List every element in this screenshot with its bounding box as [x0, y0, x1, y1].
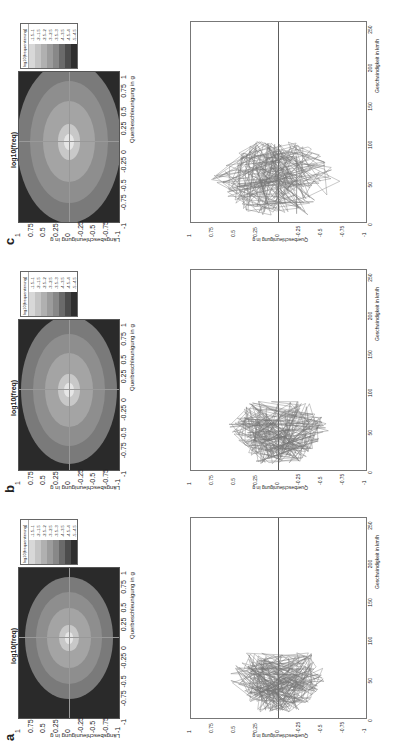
- heatmap-ytick: 1: [14, 481, 21, 485]
- heatmap-xtick: -0.75: [120, 690, 127, 706]
- legend-label: -1.5--1: [30, 525, 35, 540]
- heatmap-xtick: -0.75: [120, 194, 127, 210]
- heatmap-ytick: 1: [14, 233, 21, 237]
- heatmap-xtick: -0.5: [120, 427, 127, 439]
- heatmap-ylabel-b: Längsbeschleunigung in g: [50, 485, 120, 491]
- line-plot-b: [190, 269, 367, 471]
- heatmap-xtick: 0: [120, 646, 127, 650]
- line-xlabel-c: Geschwindigkeit in km/h: [374, 39, 380, 93]
- legend-swatch: [71, 292, 77, 316]
- legend-label: -3--2.5: [48, 525, 53, 540]
- line-xlabel-a: Geschwindigkeit in km/h: [374, 535, 380, 589]
- legend-swatch: [71, 540, 77, 564]
- heatmap-a: [18, 567, 120, 719]
- legend-title: log10(frequentierung): [21, 24, 29, 68]
- legend-label: -4--3.5: [60, 29, 65, 44]
- line-xtick: 0: [367, 471, 373, 474]
- legend-title: log10(frequentierung): [21, 272, 29, 316]
- line-ytick: 1: [186, 730, 192, 733]
- line-xtick: 200: [367, 312, 373, 320]
- line-ylabel-c: Querbeschleunigung in g: [252, 237, 308, 243]
- line-ytick: -0.75: [339, 474, 345, 485]
- heatmap-xtick: -0.5: [120, 675, 127, 687]
- heatmap-xlabel-a: Querbeschleunigung in g: [129, 572, 135, 639]
- legend-label: -4.5--4: [66, 525, 71, 540]
- heatmap-xtick: -0.25: [120, 653, 127, 669]
- line-ytick: 0.25: [252, 475, 258, 485]
- line-ytick: -0.25: [295, 474, 301, 485]
- line-ytick: 0.75: [208, 475, 214, 485]
- heatmap-legend-a: log10(frequentierung)-1.5--1-2--1.5-2.5-…: [20, 519, 78, 565]
- figure-rotated-canvas: alog10(freq)10.750.50.250-0.25-0.5-0.75-…: [0, 0, 411, 751]
- line-ytick: 0.75: [208, 723, 214, 733]
- line-ytick: 0.25: [252, 227, 258, 237]
- heatmap-ytick: 1: [14, 729, 21, 733]
- heatmap-ytick: -0.75: [102, 717, 109, 733]
- line-ytick: -0.5: [317, 228, 323, 237]
- heatmap-xtick: 0.75: [120, 580, 127, 594]
- line-ytick: -0.25: [295, 722, 301, 733]
- legend-label: -3.5--3: [54, 29, 59, 44]
- heatmap-xtick: 1: [120, 75, 127, 79]
- heatmap-ylabel-a: Längsbeschleunigung in g: [50, 733, 120, 739]
- line-ytick: -1: [361, 233, 367, 237]
- line-ytick: 1: [186, 482, 192, 485]
- legend-label: -4--3.5: [60, 277, 65, 292]
- zero-line-y: [69, 72, 70, 222]
- heatmap-xtick: -0.5: [120, 179, 127, 191]
- heatmap-ytick: 0.25: [52, 223, 59, 237]
- legend-row: -5--4.5: [71, 24, 77, 68]
- line-ytick: -0.5: [317, 724, 323, 733]
- line-ytick: -0.5: [317, 476, 323, 485]
- heatmap-c: [18, 71, 120, 223]
- heatmap-xtick: -1: [120, 471, 127, 477]
- heatmap-title-a: log10(freq): [10, 628, 17, 664]
- panel-letter-b: b: [2, 485, 17, 493]
- line-xlabel-b: Geschwindigkeit in km/h: [374, 287, 380, 341]
- legend-label: -5--4.5: [72, 277, 77, 292]
- heatmap-ytick: 0.75: [27, 719, 34, 733]
- heatmap-xtick: 0: [120, 150, 127, 154]
- heatmap-ytick: 0.5: [39, 475, 46, 485]
- legend-label: -2.5--2: [42, 29, 47, 44]
- heatmap-xtick: -1: [120, 223, 127, 229]
- heatmap-ytick: -0.5: [89, 473, 96, 485]
- heatmap-ytick: 0.75: [27, 471, 34, 485]
- zero-line-y: [69, 320, 70, 470]
- heatmap-xlabel-c: Querbeschleunigung in g: [129, 76, 135, 143]
- heatmap-ytick: -0.5: [89, 721, 96, 733]
- heatmap-ytick: 0.5: [39, 723, 46, 733]
- line-ytick: -0.75: [339, 226, 345, 237]
- line-xtick: 0: [367, 719, 373, 722]
- line-xtick: 250: [367, 25, 373, 33]
- heatmap-legend-b: log10(frequentierung)-1.5--1-2--1.5-2.5-…: [20, 271, 78, 317]
- legend-label: -2--1.5: [36, 29, 41, 44]
- line-ytick: 1: [186, 234, 192, 237]
- heatmap-ytick: -0.25: [77, 221, 84, 237]
- legend-label: -5--4.5: [72, 525, 77, 540]
- line-xtick: 250: [367, 273, 373, 281]
- legend-label: -3--2.5: [48, 277, 53, 292]
- legend-label: -2--1.5: [36, 277, 41, 292]
- line-ytick: -0.75: [339, 722, 345, 733]
- heatmap-title-c: log10(freq): [10, 132, 17, 168]
- heatmap-ytick: -0.5: [89, 225, 96, 237]
- heatmap-xtick: 0.25: [120, 122, 127, 136]
- heatmap-ytick: -0.25: [77, 469, 84, 485]
- line-xtick: 100: [367, 389, 373, 397]
- legend-label: -2.5--2: [42, 525, 47, 540]
- heatmap-title-b: log10(freq): [10, 380, 17, 416]
- line-plot-c: [190, 21, 367, 223]
- line-ytick: -1: [361, 729, 367, 733]
- legend-label: -3.5--3: [54, 525, 59, 540]
- heatmap-legend-c: log10(frequentierung)-1.5--1-2--1.5-2.5-…: [20, 23, 78, 69]
- heatmap-b: [18, 319, 120, 471]
- heatmap-ytick: 0.25: [52, 471, 59, 485]
- legend-title: log10(frequentierung): [21, 520, 29, 564]
- legend-row: -5--4.5: [71, 272, 77, 316]
- line-ytick: 0.5: [230, 230, 236, 237]
- legend-label: -1.5--1: [30, 277, 35, 292]
- line-plot-a: [190, 517, 367, 719]
- legend-label: -4.5--4: [66, 29, 71, 44]
- line-xtick: 50: [367, 678, 373, 684]
